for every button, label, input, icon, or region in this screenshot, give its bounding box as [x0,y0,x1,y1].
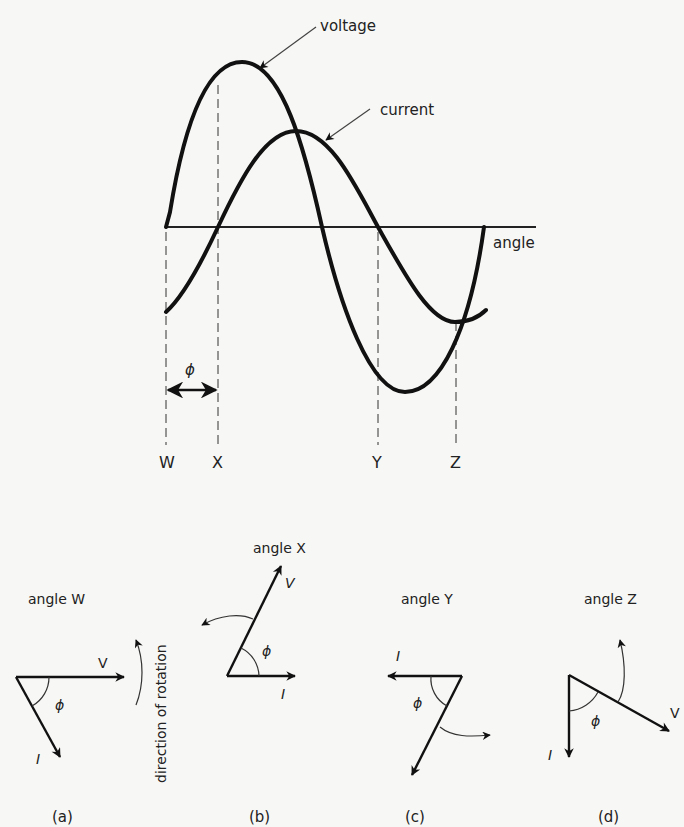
phasor-d-phi: ϕ [591,713,600,729]
rotation-label: direction of rotation [153,644,169,783]
phasor-diagram-b: angle X ϕ V I (b) [202,540,306,826]
phasor-d-title: angle Z [584,591,637,607]
voltage-label: voltage [320,17,376,35]
phasor-b-phi: ϕ [262,643,271,659]
phasor-diagram-a: angle W ϕ V I (a) [16,591,124,826]
phasor-a-v-label: V [98,655,108,671]
phasor-diagram-c: angle Y ϕ I (c) [388,591,490,826]
phi-arc-c [431,676,447,706]
phasor-d-v-label: V [670,705,680,721]
phasor-b-title: angle X [253,540,306,556]
phasor-a-title: angle W [28,591,85,607]
phasor-b-i-label: I [281,686,285,702]
marker-label-y: Y [371,453,382,472]
rotation-arrow-c [440,727,490,736]
phasor-b-v-label: V [285,575,296,591]
marker-label-x: X [212,453,223,472]
marker-label-w: W [159,453,175,472]
rotation-arrow-d [618,640,624,702]
voltage-phasor-d [569,675,669,731]
rotation-indicator: direction of rotation [136,640,169,783]
voltage-pointer [260,27,316,68]
marker-label-z: Z [450,453,461,472]
rotation-arrow [136,640,142,705]
phi-arc-a [32,677,49,706]
current-label: current [380,101,434,119]
current-pointer [326,109,370,140]
phasor-b-caption: (b) [249,808,270,826]
phi-arc-b [241,648,259,676]
phasor-c-title: angle Y [401,591,453,607]
phi-arc-d [569,692,598,711]
phasor-c-phi: ϕ [413,695,422,711]
rotation-arrow-b [202,616,253,625]
phasor-a-i-label: I [36,751,40,767]
phasor-a-caption: (a) [52,808,73,826]
phasor-a-phi: ϕ [55,697,64,713]
phase-angle-label: ϕ [185,361,195,379]
phasor-diagram-d: angle Z ϕ V I (d) [548,591,680,826]
phasor-d-caption: (d) [598,808,619,826]
current-phasor-a [16,677,60,757]
voltage-phasor-c [412,676,462,775]
phasor-waveform-diagram: voltage current angle ϕ W X Y Z angle W … [0,0,684,827]
waveform-plot: voltage current angle ϕ W X Y Z [159,17,536,472]
phasor-c-i-label: I [396,648,400,664]
angle-axis-label: angle [493,234,535,252]
phasor-d-i-label: I [548,747,552,763]
phasor-c-caption: (c) [405,808,425,826]
